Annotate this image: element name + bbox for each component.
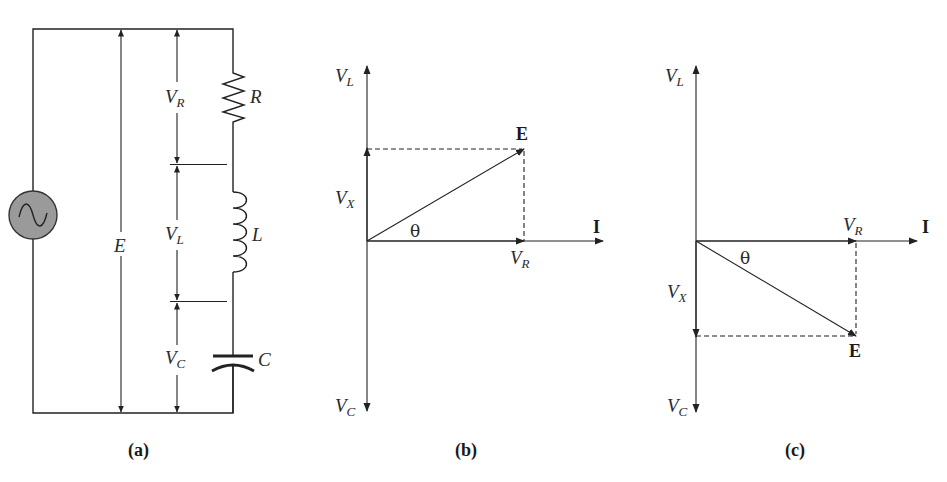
angle-label: θ	[410, 221, 420, 241]
vr-label: VR	[510, 247, 530, 271]
current-label: I	[593, 217, 600, 237]
resultant-label: E	[516, 124, 528, 144]
panel-c-phasor: VL VX VC VR I E θ (c)	[665, 65, 929, 461]
vl-axis-label: VL	[665, 65, 684, 89]
vr-label: VR	[843, 214, 863, 238]
vc-label: VC	[165, 347, 186, 371]
resistor-icon	[223, 70, 244, 192]
resultant-e-arrow	[696, 241, 856, 336]
resistor-label: R	[249, 86, 262, 107]
capacitor-label: C	[258, 349, 271, 370]
angle-label: θ	[740, 248, 750, 268]
panel-b-caption: (b)	[455, 440, 477, 461]
source-voltage-label: E	[113, 235, 126, 256]
capacitor-icon	[212, 356, 254, 413]
panel-a-circuit: R L C E VR VL	[9, 29, 271, 461]
panel-b-phasor: VL VX VC VR I E θ (b)	[335, 65, 603, 461]
vx-label: VX	[667, 281, 688, 305]
current-label: I	[922, 217, 929, 237]
panel-a-caption: (a)	[128, 440, 149, 461]
left-wire-bottom	[33, 239, 233, 413]
vx-label: VX	[335, 187, 356, 211]
resultant-label: E	[849, 341, 861, 361]
panel-c-caption: (c)	[785, 440, 805, 461]
resultant-e-arrow	[367, 149, 524, 241]
vl-label: VL	[165, 223, 184, 247]
vc-axis-label: VC	[667, 395, 688, 419]
inductor-icon	[233, 192, 247, 356]
vc-axis-label: VC	[335, 395, 356, 419]
left-wire	[33, 29, 233, 191]
vr-label: VR	[165, 86, 185, 110]
inductor-label: L	[251, 224, 263, 245]
ac-source-icon	[9, 191, 57, 239]
rlc-series-phasor-figure: R L C E VR VL	[0, 0, 947, 482]
vl-axis-label: VL	[335, 65, 354, 89]
